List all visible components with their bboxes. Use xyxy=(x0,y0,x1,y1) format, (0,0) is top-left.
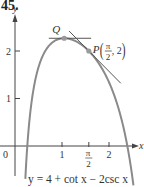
x-tick-label-denominator: 2 xyxy=(86,159,91,169)
y-tick-label: 1 xyxy=(6,93,11,104)
y-tick-label: 2 xyxy=(6,46,11,57)
point-q-label: Q xyxy=(52,23,60,35)
axes: yx0121π22 xyxy=(0,3,144,176)
function-curve xyxy=(25,38,133,185)
y-axis-label: y xyxy=(12,3,18,14)
function-caption: y = 4 + cot x − 2csc x xyxy=(28,173,128,186)
tangent-line-p xyxy=(69,31,121,83)
point-p-denominator: 2 xyxy=(106,52,111,62)
point-p-label: P xyxy=(92,43,100,55)
function-graph: yx0121π22 QP(π2, 2) y = 4 + cot x − 2csc… xyxy=(0,0,144,187)
point-p xyxy=(86,48,91,53)
point-p-numerator: π xyxy=(106,41,111,51)
x-tick-label: 2 xyxy=(107,149,112,160)
x-axis-label: x xyxy=(138,140,144,151)
point-p-paren-close: ) xyxy=(122,39,126,61)
origin-label: 0 xyxy=(3,149,8,160)
point-p-suffix: , 2 xyxy=(112,45,122,56)
point-q xyxy=(62,36,67,41)
labels: QP(π2, 2) xyxy=(52,23,125,62)
point-p-paren-open: ( xyxy=(100,39,104,61)
x-axis-arrow-icon xyxy=(132,144,139,149)
y-axis-arrow-icon xyxy=(13,14,18,22)
x-tick-label-numerator: π xyxy=(86,148,91,158)
x-tick-label: 1 xyxy=(60,149,65,160)
